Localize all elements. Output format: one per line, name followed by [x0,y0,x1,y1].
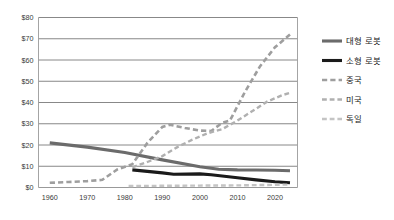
x-tick-label: 1980 [117,193,133,202]
line-chart: $0$10$20$30$40$50$60$70$80 1960197019801… [0,0,394,220]
y-tick-label: $10 [22,162,34,171]
y-tick-label: $80 [22,13,34,22]
y-tick-label: $40 [22,98,34,107]
x-tick-label: 2010 [229,193,245,202]
y-tick-label: $60 [22,56,34,65]
y-tick-label: $50 [22,77,34,86]
chart-canvas: $0$10$20$30$40$50$60$70$80 1960197019801… [0,0,394,220]
legend-label-미국: 미국 [346,95,362,105]
series-line-독일 [129,185,290,186]
series-group [50,35,290,187]
legend-label-중국: 중국 [346,75,362,85]
legend-label-소형 로봇: 소형 로봇 [346,56,381,66]
x-axis-tick-labels: 1960197019801990200020102020 [42,193,283,202]
legend-label-독일: 독일 [346,114,362,124]
x-tick-label: 1970 [79,193,95,202]
legend-label-대형 로봇: 대형 로봇 [346,36,381,46]
x-tick-label: 1990 [154,193,170,202]
y-tick-label: $70 [22,34,34,43]
y-axis-tick-labels: $0$10$20$30$40$50$60$70$80 [22,13,34,192]
legend: 대형 로봇소형 로봇중국미국독일 [322,36,381,124]
y-tick-label: $0 [26,183,34,192]
y-tick-label: $30 [22,119,34,128]
y-tick-label: $20 [22,141,34,150]
x-tick-label: 2020 [267,193,283,202]
x-tick-label: 1960 [42,193,58,202]
x-tick-label: 2000 [192,193,208,202]
series-line-소형 로봇 [132,170,290,183]
